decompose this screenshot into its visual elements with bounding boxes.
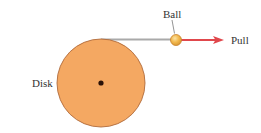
pull-label: Pull [231, 34, 249, 46]
ball [171, 35, 182, 46]
ball-label: Ball [163, 8, 181, 20]
disk-ball-pull-diagram: Ball Pull Disk [0, 0, 261, 133]
disk-label: Disk [32, 77, 53, 89]
disk-center-dot [98, 80, 103, 85]
ball-leader-line [172, 20, 175, 34]
